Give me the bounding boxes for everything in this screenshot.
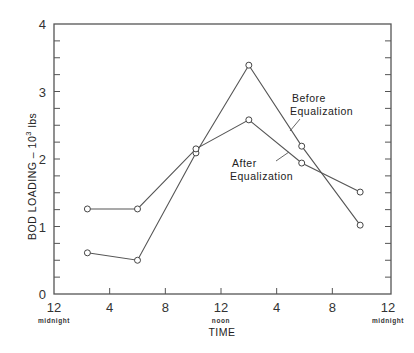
data-point-marker xyxy=(299,143,305,149)
data-point-marker xyxy=(193,146,199,152)
x-tick-sublabel: midnight xyxy=(372,317,404,325)
y-axis-title-main: BOD LOADING – 10 xyxy=(26,136,38,240)
y-axis-ticks: 01234 xyxy=(39,17,391,302)
y-tick-label: 1 xyxy=(39,220,46,235)
leader-line-after xyxy=(276,152,289,161)
data-point-marker xyxy=(357,189,363,195)
y-axis-title-unit: lbs xyxy=(26,113,38,131)
annotation-after-equalization: After xyxy=(232,157,257,169)
x-tick-label: 8 xyxy=(329,300,336,315)
data-point-marker xyxy=(135,257,141,263)
y-tick-label: 2 xyxy=(39,152,46,167)
annotation-before-equalization: Before xyxy=(292,92,326,104)
y-axis-title: BOD LOADING – 103 lbs xyxy=(24,113,38,240)
x-tick-label: 4 xyxy=(106,300,113,315)
x-tick-label: 12 xyxy=(47,300,61,315)
plot-border xyxy=(54,24,391,294)
x-tick-label: 8 xyxy=(162,300,169,315)
line-after-equalization xyxy=(87,120,360,209)
data-point-marker xyxy=(299,160,305,166)
data-point-marker xyxy=(246,62,252,68)
annotation-after-equalization-line2: Equalization xyxy=(230,170,293,182)
x-tick-label: 12 xyxy=(381,300,395,315)
x-tick-sublabel: midnight xyxy=(38,317,70,325)
data-point-marker xyxy=(84,206,90,212)
y-tick-label: 0 xyxy=(39,287,46,302)
bod-loading-chart: 01234 12midnight4812noon4812midnight Bef… xyxy=(0,0,414,353)
data-point-marker xyxy=(246,117,252,123)
annotations: BeforeEqualizationAfterEqualization xyxy=(230,92,353,182)
x-tick-label: 4 xyxy=(273,300,280,315)
y-tick-label: 4 xyxy=(39,17,46,32)
x-tick-label: 12 xyxy=(214,300,228,315)
x-axis-title: TIME xyxy=(208,326,235,338)
x-tick-sublabel: noon xyxy=(212,317,230,324)
data-point-marker xyxy=(357,222,363,228)
y-tick-label: 3 xyxy=(39,85,46,100)
data-point-marker xyxy=(84,250,90,256)
data-point-marker xyxy=(135,206,141,212)
leader-line-before xyxy=(290,119,300,131)
annotation-before-equalization-line2: Equalization xyxy=(290,105,353,117)
plot-frame xyxy=(54,24,391,294)
